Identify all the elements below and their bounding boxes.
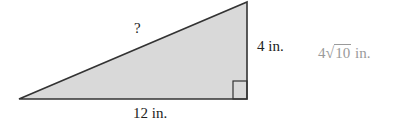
vertical-leg-label: 4 in. <box>257 38 284 55</box>
hypotenuse-label: ? <box>134 20 141 37</box>
answer-coefficient: 4 <box>318 45 326 61</box>
square-root: √10 <box>326 44 352 62</box>
answer-label: 4√10 in. <box>318 44 370 62</box>
radical-icon: √ <box>326 44 335 61</box>
answer-unit: in. <box>355 45 370 61</box>
answer-radicand: 10 <box>334 44 351 61</box>
triangle-diagram <box>0 0 405 128</box>
horizontal-leg-label: 12 in. <box>133 105 167 122</box>
right-triangle <box>19 2 247 99</box>
